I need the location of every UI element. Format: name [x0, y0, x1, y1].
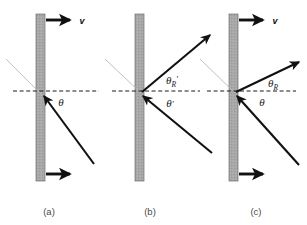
- mirror-bar-c: [229, 14, 238, 181]
- panel-caption-a: (a): [43, 206, 55, 217]
- angle-subscript: R: [272, 83, 278, 92]
- incident-ray: [143, 96, 212, 153]
- angle-symbol: θ: [58, 96, 64, 108]
- panel-caption-c: (c): [250, 206, 261, 217]
- mirror-bar-b: [135, 14, 144, 181]
- angle-label-theta-r-prime: θR′: [166, 74, 179, 89]
- angle-label-theta: θ: [58, 96, 64, 108]
- panel-c: v θR θ (c): [200, 14, 299, 217]
- figure-container: v θ (a) θR′ θ′ (b): [0, 0, 307, 225]
- panel-b: θR′ θ′ (b): [105, 14, 212, 217]
- angle-label-theta-prime: θ′: [166, 97, 174, 109]
- angle-label-theta: θ: [259, 96, 265, 108]
- angle-label-theta-r: θR: [268, 77, 278, 92]
- velocity-label: v: [272, 16, 278, 26]
- mirror-bar-a: [36, 14, 45, 181]
- incident-ray: [44, 96, 94, 164]
- reflection-diagram: v θ (a) θR′ θ′ (b): [0, 0, 307, 225]
- incident-ray: [237, 96, 299, 165]
- angle-prime: ′: [176, 74, 179, 84]
- panel-a: v θ (a): [6, 14, 99, 217]
- panel-caption-b: (b): [144, 206, 156, 217]
- velocity-label: v: [79, 16, 85, 26]
- angle-prime: ′: [172, 99, 175, 109]
- angle-symbol: θ: [259, 96, 265, 108]
